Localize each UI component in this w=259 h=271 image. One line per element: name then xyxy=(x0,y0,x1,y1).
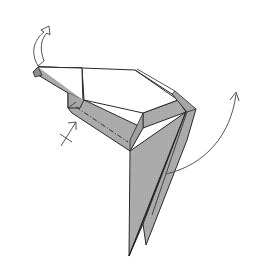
pull-out-arrow-icon xyxy=(34,26,50,66)
origami-diagram: Origami model (bird/crane-like form) sho… xyxy=(0,0,259,271)
origami-figure xyxy=(0,0,259,271)
hidden-fold-arrow-icon xyxy=(60,122,76,146)
body-top-white-face xyxy=(38,67,178,113)
